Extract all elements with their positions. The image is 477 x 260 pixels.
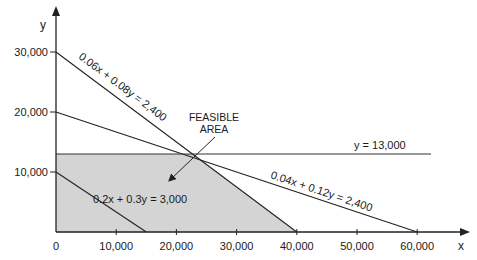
x-tick-30000: 30,000 xyxy=(220,240,254,252)
label-0.2x-0.3y: 0.2x + 0.3y = 3,000 xyxy=(93,193,187,205)
x-axis-label: x xyxy=(458,239,464,253)
label-y-13000: y = 13,000 xyxy=(354,139,406,151)
linear-programming-chart: 0 10,000 20,000 30,000 40,000 50,000 60,… xyxy=(0,0,477,260)
y-axis-label: y xyxy=(40,18,46,32)
x-tick-60000: 60,000 xyxy=(400,240,434,252)
x-tick-50000: 50,000 xyxy=(340,240,374,252)
x-axis-arrow-icon xyxy=(460,228,470,236)
label-0.06x-0.08y: 0.06x + 0.08y = 2,400 xyxy=(77,50,169,123)
feasible-label-line1: FEASIBLE xyxy=(189,111,239,123)
x-tick-20000: 20,000 xyxy=(160,240,194,252)
y-tick-20000: 20,000 xyxy=(14,106,48,118)
y-axis-arrow-icon xyxy=(52,6,60,16)
label-0.04x-0.12y: 0.04x + 0.12y = 2,400 xyxy=(269,169,374,214)
x-tick-40000: 40,000 xyxy=(280,240,314,252)
x-tick-10000: 10,000 xyxy=(99,240,133,252)
y-tick-30000: 30,000 xyxy=(14,46,48,58)
y-tick-10000: 10,000 xyxy=(14,166,48,178)
y-ticks xyxy=(50,52,56,172)
feasible-label-line2: AREA xyxy=(200,123,229,135)
x-tick-0: 0 xyxy=(53,240,59,252)
